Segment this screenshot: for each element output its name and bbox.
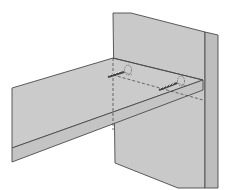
diagram-canvas — [0, 0, 225, 190]
shelf-joint-illustration — [0, 0, 225, 190]
panel-side-edge — [205, 32, 218, 188]
